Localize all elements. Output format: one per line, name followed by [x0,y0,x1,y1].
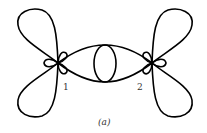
lobe-bottom-left [18,63,58,117]
figure-caption: (a) [98,117,111,127]
lobe-bottom-right [152,63,192,117]
lobe-top-left [18,9,58,63]
graph-diagram: 1 2 (a) [0,0,207,133]
lobe-top-right [152,9,192,63]
vertex-label-2: 2 [137,82,143,92]
lens-bottom-edge [58,63,152,82]
center-loop [94,45,116,82]
lens-top-edge [58,45,152,63]
vertex-label-1: 1 [63,82,69,92]
